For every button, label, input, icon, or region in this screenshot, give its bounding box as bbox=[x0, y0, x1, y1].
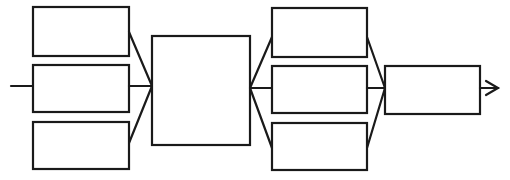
stage1-box-top bbox=[33, 7, 129, 56]
stage4-box bbox=[385, 66, 480, 114]
stage3-box-middle bbox=[272, 66, 367, 113]
block-diagram bbox=[0, 0, 510, 180]
connector-s3top-s4 bbox=[367, 37, 385, 88]
stage2-box bbox=[152, 36, 250, 145]
connector-s1top-s2 bbox=[129, 32, 152, 86]
connector-s1bot-s2 bbox=[129, 86, 152, 143]
output-arrow-icon bbox=[480, 81, 498, 95]
stage3-box-bottom bbox=[272, 123, 367, 170]
stage1-box-middle bbox=[33, 65, 129, 112]
connector-s2-s3top bbox=[250, 37, 272, 88]
connector-s2-s3bot bbox=[250, 88, 272, 148]
connector-s3bot-s4 bbox=[367, 88, 385, 148]
stage3-box-top bbox=[272, 8, 367, 57]
stage1-box-bottom bbox=[33, 122, 129, 169]
